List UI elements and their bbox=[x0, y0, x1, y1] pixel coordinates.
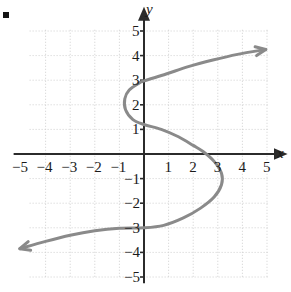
y-tick-label: 2 bbox=[132, 98, 140, 113]
y-tick-label: −1 bbox=[124, 172, 140, 187]
y-tick-label: −5 bbox=[124, 270, 140, 285]
x-axis-label: x bbox=[277, 146, 284, 161]
x-tick-label: 1 bbox=[165, 160, 173, 175]
axes bbox=[14, 19, 276, 283]
x-tick-label: −2 bbox=[86, 160, 102, 175]
x-tick-label: 4 bbox=[238, 160, 246, 175]
x-tick-label: 2 bbox=[189, 160, 197, 175]
x-tick-label: 3 bbox=[214, 160, 222, 175]
y-tick-label: −2 bbox=[124, 196, 140, 211]
y-tick-label: −3 bbox=[124, 221, 140, 236]
x-tick-label: 5 bbox=[263, 160, 271, 175]
x-tick-label: −4 bbox=[37, 160, 53, 175]
y-tick-label: 3 bbox=[132, 73, 140, 88]
y-tick-label: 4 bbox=[132, 49, 140, 64]
y-tick-label: −4 bbox=[124, 245, 140, 260]
curve-path bbox=[20, 49, 266, 248]
x-tick-label: −3 bbox=[61, 160, 77, 175]
curve-series bbox=[20, 47, 266, 251]
y-tick-label: 5 bbox=[132, 24, 140, 39]
y-tick-label: 1 bbox=[132, 122, 140, 137]
x-tick-label: −5 bbox=[12, 160, 28, 175]
y-axis-label: y bbox=[146, 2, 153, 17]
coordinate-plane bbox=[0, 0, 291, 292]
graph-figure: −5−4−3−2−112345 54321−1−2−3−4−5 x y bbox=[0, 0, 291, 292]
